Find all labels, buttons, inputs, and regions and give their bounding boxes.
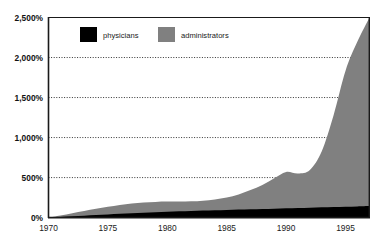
y-tick-label-2000: 2,000% (15, 53, 44, 63)
x-tick-label-1970: 1970 (39, 223, 58, 233)
x-tick-label-1975: 1975 (99, 223, 118, 233)
legend-swatch-physicians (80, 27, 97, 42)
y-tick-label-500: 500% (22, 173, 44, 183)
legend-label-administrators: administrators (181, 31, 229, 40)
x-tick-label-1985: 1985 (217, 223, 236, 233)
legend-label-physicians: physicians (103, 31, 139, 40)
growth-area-chart: 2,500%2,000%1,500%1,000%500%0% 197019751… (0, 0, 384, 247)
chart-container: 2,500%2,000%1,500%1,000%500%0% 197019751… (0, 0, 384, 247)
y-tick-label-0: 0% (31, 213, 44, 223)
legend-swatch-administrators (158, 27, 175, 42)
y-tick-label-1000: 1,000% (15, 133, 44, 143)
x-tick-label-1980: 1980 (158, 223, 177, 233)
y-tick-label-2500: 2,500% (15, 13, 44, 23)
y-tick-label-1500: 1,500% (15, 93, 44, 103)
x-tick-label-1995: 1995 (336, 223, 355, 233)
x-tick-label-1990: 1990 (277, 223, 296, 233)
